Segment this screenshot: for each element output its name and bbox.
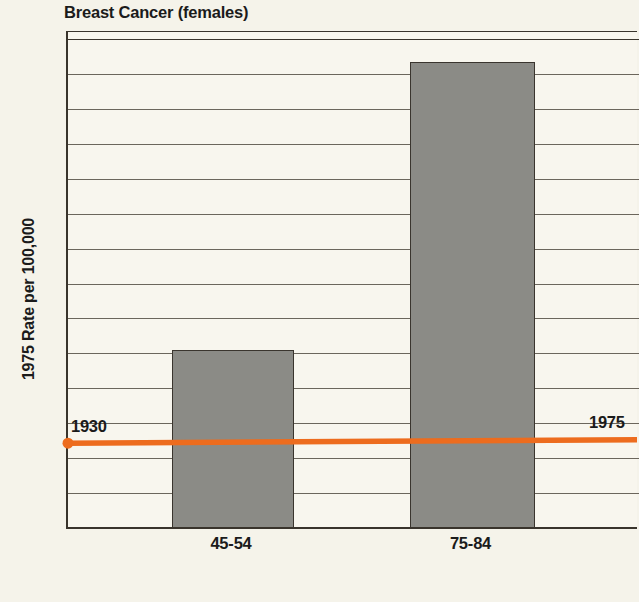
y-axis-title: 1975 Rate per 100,000: [20, 134, 38, 464]
gridline: [68, 318, 639, 319]
gridline: [68, 249, 639, 250]
gridline: [68, 144, 639, 145]
bar-75-84: [410, 62, 535, 528]
chart-title: Breast Cancer (females): [64, 3, 248, 22]
trend-end-label: 1975: [589, 413, 625, 432]
gridline: [68, 458, 639, 459]
gridline: [68, 39, 639, 40]
gridline: [68, 423, 639, 424]
trend-start-label: 1930: [71, 417, 107, 436]
gridline: [68, 493, 639, 494]
gridline: [68, 179, 639, 180]
x-tick-label: 75-84: [408, 534, 533, 553]
x-axis-line: [66, 527, 637, 529]
plot-area: [66, 31, 637, 528]
gridline: [68, 284, 639, 285]
bar-45-54: [172, 350, 294, 528]
gridline: [68, 388, 639, 389]
x-tick-label: 45-54: [170, 534, 292, 553]
gridline: [68, 74, 639, 75]
gridline: [68, 214, 639, 215]
gridline: [68, 109, 639, 110]
gridline: [68, 353, 639, 354]
